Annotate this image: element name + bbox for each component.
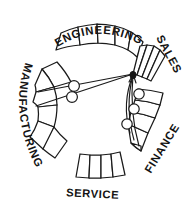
hub-dot xyxy=(130,71,136,78)
segment xyxy=(89,155,101,178)
diagram-canvas: ENGINEERING SALES xyxy=(0,0,193,204)
department-service[interactable]: SERVICE xyxy=(66,152,125,201)
segment xyxy=(111,152,125,177)
department-manufacturing[interactable]: MANUFACTURING xyxy=(17,62,71,170)
node-manufacturing-1[interactable] xyxy=(69,81,80,92)
node-manufacturing-2[interactable] xyxy=(67,92,78,103)
org-wheel-diagram: ENGINEERING SALES xyxy=(0,0,193,204)
node-finance-3[interactable] xyxy=(122,119,132,129)
department-engineering[interactable]: ENGINEERING xyxy=(53,24,145,57)
node-finance-1[interactable] xyxy=(134,89,144,99)
node-finance-2[interactable] xyxy=(129,104,139,114)
service-segments xyxy=(76,152,125,178)
segment xyxy=(76,154,90,178)
department-label-service: SERVICE xyxy=(66,186,120,201)
